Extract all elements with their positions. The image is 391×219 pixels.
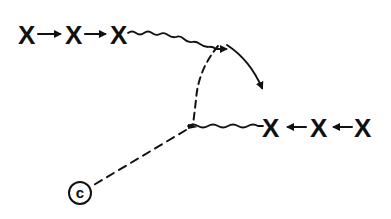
top-node-2: X: [65, 20, 83, 50]
dashed-link-to-c: [92, 130, 186, 186]
bottom-wavy-line: [188, 125, 263, 128]
circle-c-node: c: [69, 182, 91, 204]
bottom-node-3: X: [354, 113, 372, 143]
top-wavy-arrow: [128, 32, 226, 50]
top-chain: X X X: [18, 20, 128, 50]
bottom-chain: X X X: [262, 113, 372, 143]
top-node-3: X: [110, 20, 128, 50]
circle-c-label: c: [76, 184, 84, 201]
curved-arrow: [227, 45, 262, 88]
reaction-diagram: X X X X X X c: [0, 0, 391, 219]
top-node-1: X: [18, 20, 36, 50]
bottom-node-2: X: [310, 113, 328, 143]
dashed-link-upper-lower: [193, 46, 218, 125]
bottom-node-1: X: [262, 113, 280, 143]
